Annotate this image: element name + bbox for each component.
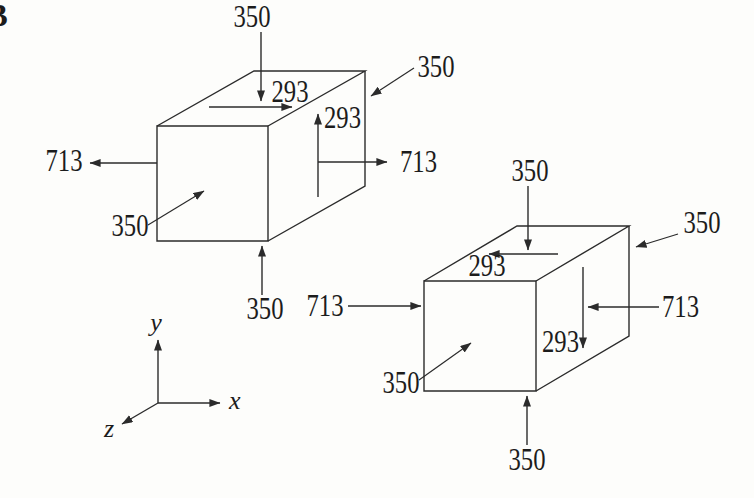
upper-bottom-normal-label: 350 xyxy=(247,291,284,326)
y-axis-label: y xyxy=(147,308,162,337)
lower-top-normal-label: 350 xyxy=(512,153,549,188)
lower-right-shear-label: 293 xyxy=(542,324,579,359)
lower-bottom-normal-label: 350 xyxy=(509,442,546,477)
upper-stress-element: 350 293 350 293 713 713 350 350 xyxy=(46,0,455,326)
upper-right-shear-label: 293 xyxy=(324,100,361,135)
lower-back-normal-arrow xyxy=(636,234,678,247)
upper-top-normal-label: 350 xyxy=(234,0,271,34)
stress-elements-canvas: B 350 293 350 293 713 713 xyxy=(0,0,754,498)
z-axis-label: z xyxy=(103,414,114,443)
upper-back-normal-label: 350 xyxy=(418,49,455,84)
coordinate-axes: y x z xyxy=(103,308,241,443)
z-axis-arrow xyxy=(122,403,158,424)
lower-top-shear-label: 293 xyxy=(469,248,506,283)
x-axis-label: x xyxy=(228,386,241,415)
lower-front-normal-arrow xyxy=(419,343,471,380)
lower-stress-element: 350 293 350 713 293 713 350 350 xyxy=(307,153,721,477)
upper-element-front-face xyxy=(157,126,268,241)
lower-element-front-face xyxy=(424,281,536,391)
upper-front-normal-label: 350 xyxy=(112,208,149,243)
lower-back-normal-label: 350 xyxy=(684,205,721,240)
lower-front-normal-label: 350 xyxy=(383,365,420,400)
corner-mark-text: B xyxy=(0,0,8,33)
stress-elements-figure: B 350 293 350 293 713 713 xyxy=(0,0,754,498)
lower-right-normal-label: 713 xyxy=(662,289,699,324)
lower-left-normal-label: 713 xyxy=(307,288,344,323)
upper-back-normal-arrow xyxy=(371,68,414,96)
upper-right-normal-label: 713 xyxy=(400,144,437,179)
upper-top-shear-label: 293 xyxy=(272,74,309,109)
upper-left-normal-label: 713 xyxy=(46,143,83,178)
